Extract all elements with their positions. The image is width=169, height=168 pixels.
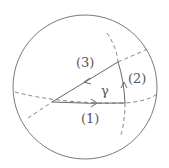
equator-great-circle xyxy=(15,92,158,103)
meridian-extension-top xyxy=(107,33,118,62)
label-path-3: (3) xyxy=(76,56,94,69)
great-circle-3-extension-2 xyxy=(118,48,150,62)
label-angle-gamma: γ xyxy=(101,84,109,97)
sphere-outline xyxy=(13,15,157,159)
meridian-extension-bottom xyxy=(121,103,125,135)
sphere-diagram: (1) (2) (3) γ xyxy=(0,0,169,168)
great-circle-3-extension xyxy=(28,102,52,118)
label-path-2: (2) xyxy=(128,72,146,85)
label-path-1: (1) xyxy=(81,112,99,125)
